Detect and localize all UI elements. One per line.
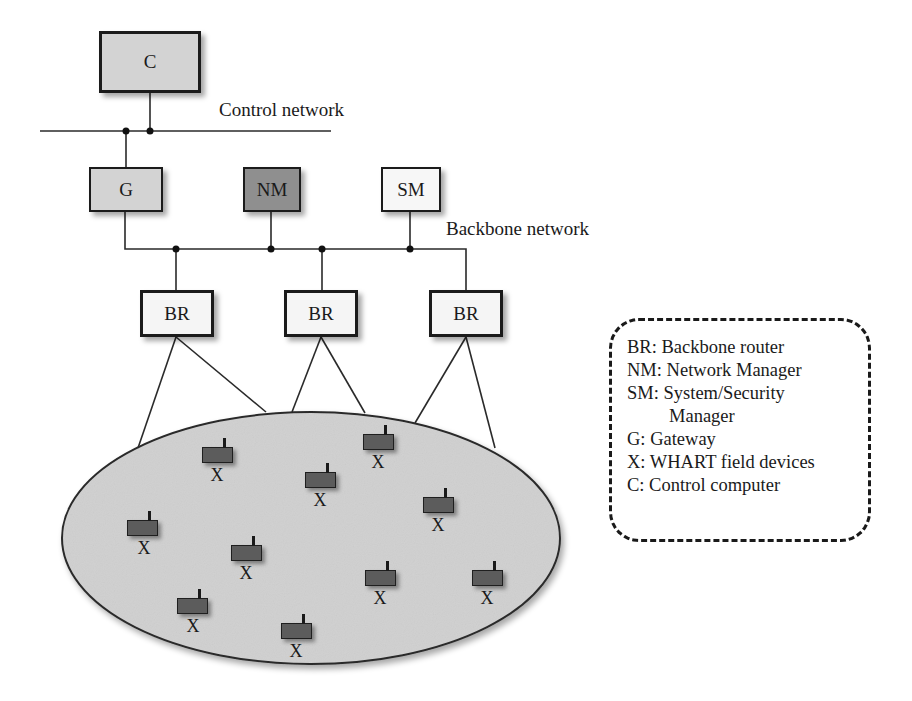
field-device-label: X [286,641,306,662]
legend-item-c: C: Control computer [627,475,780,496]
backbone-router-node-2: BR [284,290,358,337]
field-device-label: X [134,538,154,559]
legend-item-nm: NM: Network Manager [627,360,802,381]
field-device-icon [127,520,158,536]
field-device-label: X [477,588,497,609]
field-device-icon [365,570,396,586]
security-manager-node: SM [381,167,441,212]
control-computer-label: C [144,51,157,73]
field-device-icon [231,545,262,561]
network-manager-node: NM [243,167,301,212]
backbone-router-label: BR [453,303,478,325]
field-device-label: X [183,616,203,637]
legend-item-br: BR: Backbone router [627,337,784,358]
field-device-icon [202,447,233,463]
field-device-icon [472,570,503,586]
backbone-router-label: BR [308,303,333,325]
field-device-icon [281,623,312,639]
backbone-router-node-3: BR [429,290,503,337]
field-device-label: X [236,563,256,584]
field-device-label: X [310,490,330,511]
field-device-label: X [368,452,388,473]
backbone-network-label: Backbone network [446,218,589,240]
field-device-label: X [428,515,448,536]
backbone-router-label: BR [164,303,189,325]
legend-item-sm-cont: Manager [669,406,735,427]
gateway-node: G [89,167,163,212]
backbone-router-node-1: BR [140,290,214,337]
field-device-icon [363,434,394,450]
security-manager-label: SM [397,179,424,201]
gateway-label: G [119,179,133,201]
control-computer-node: C [99,31,201,93]
field-device-label: X [207,465,227,486]
control-network-label: Control network [219,99,344,121]
field-device-icon [423,497,454,513]
field-device-icon [177,598,208,614]
legend-item-x: X: WHART field devices [627,452,815,473]
field-device-icon [305,472,336,488]
legend-item-g: G: Gateway [627,429,716,450]
network-manager-label: NM [257,179,288,201]
field-device-label: X [370,588,390,609]
legend-item-sm: SM: System/Security [627,383,785,404]
legend-box: BR: Backbone router NM: Network Manager … [609,318,871,542]
